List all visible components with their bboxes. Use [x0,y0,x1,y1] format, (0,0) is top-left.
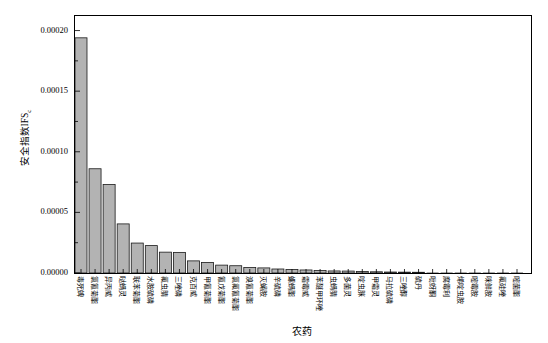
x-axis-title: 农药 [74,323,530,338]
x-category-label: 氯氰菊酯 [90,276,98,304]
y-tick-label: 0.00000 [8,267,68,277]
x-category-label: 苯醚甲环唑 [315,276,323,311]
x-category-label: 氟硅唑 [498,276,506,297]
x-category-label: 马拉硫磷 [385,276,393,304]
bar [75,38,87,273]
bar [117,224,129,273]
x-category-label: 水胺硫磷 [146,276,154,304]
y-tick-label: 0.00020 [8,25,68,35]
x-category-label: 烯啶虫胺 [456,276,464,304]
y-axis-title: 安全指数IFSc [12,8,38,268]
x-category-label: 哒螨灵 [118,276,126,297]
x-category-label: 氰戊菊酯 [217,276,225,304]
bar [89,169,101,273]
x-category-label: 氯氟氰菊酯 [231,276,239,311]
x-category-label: 嘧霉胺 [470,276,478,297]
x-category-label: 氟虫腈 [160,276,168,297]
x-category-label: 多菌灵 [343,276,351,297]
x-category-label: 灭蝇胺 [259,276,267,297]
bars-and-ticks-canvas [75,16,531,273]
x-category-label: 虫螨腈 [329,276,337,297]
y-axis-title-text: 安全指数IFS [20,113,30,167]
x-category-label: 克百威 [189,276,197,297]
x-category-label: 嘧菌酯 [512,276,520,297]
plot-area [74,15,532,274]
y-tick-label: 0.00010 [8,146,68,156]
x-category-label: 霜霉威 [301,276,309,297]
x-category-label: 三唑磷 [174,276,182,297]
x-category-label: 甲霜灵 [371,276,379,297]
x-category-label: 毒死蜱 [76,276,84,297]
x-category-label: 吡蚜酮 [428,276,436,297]
x-category-label: 甲氰菊酯 [203,276,211,304]
bar-chart-figure: 安全指数IFSc 0.000000.000050.000100.000150.0… [0,0,548,343]
x-category-label: 溴氰菊酯 [245,276,253,304]
x-category-label: 腐霉利 [442,276,450,297]
x-category-label: 咪鲜胺 [484,276,492,297]
y-tick-label: 0.00015 [8,85,68,95]
x-category-label: 啶虫脒 [357,276,365,297]
x-category-label: 螺螨酯 [287,276,295,297]
x-category-label: 联苯菊酯 [132,276,140,304]
x-category-label: 异丙威 [104,276,112,297]
x-category-label: 硫丹 [414,276,422,290]
bar [131,243,143,273]
bar [103,185,115,274]
y-axis-title-subscript: c [25,110,33,113]
y-tick-label: 0.00005 [8,206,68,216]
bar [145,246,157,273]
x-category-label: 辛硫磷 [273,276,281,297]
x-category-label: 三唑醇 [399,276,407,297]
